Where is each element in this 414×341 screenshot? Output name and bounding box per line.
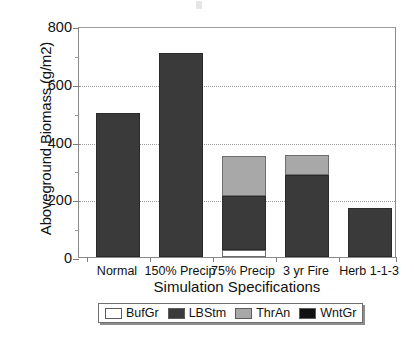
legend-swatch-bufgr bbox=[105, 308, 122, 319]
y-tick-0 bbox=[73, 259, 79, 260]
y-tick-minor-300 bbox=[75, 172, 79, 173]
y-tick-800 bbox=[73, 28, 79, 29]
x-tick-label-3-yr-fire: 3 yr Fire bbox=[283, 264, 329, 278]
legend-swatch-lbstm bbox=[168, 308, 185, 319]
bar-segment-thran bbox=[222, 156, 266, 196]
legend-label-bufgr: BufGr bbox=[126, 306, 159, 320]
y-tick-200 bbox=[73, 201, 79, 202]
x-tick-2 bbox=[213, 257, 214, 262]
x-tick-label-herb: Herb 1-1-3 bbox=[339, 264, 399, 278]
y-tick-minor-500 bbox=[75, 115, 79, 116]
legend-swatch-thran bbox=[235, 308, 252, 319]
x-tick-label-75-precip: 75% Precip bbox=[211, 264, 275, 278]
bar-segment-lbstm bbox=[348, 208, 392, 257]
legend-label-thran: ThrAn bbox=[256, 306, 290, 320]
legend-label-lbstm: LBStm bbox=[189, 306, 227, 320]
bar-segment-lbstm bbox=[159, 53, 203, 257]
legend-swatch-wntgr bbox=[299, 308, 316, 319]
bar-segment-lbstm bbox=[222, 196, 266, 249]
bar-segment-thran bbox=[285, 155, 329, 175]
x-axis-title: Simulation Specifications bbox=[78, 278, 396, 295]
x-tick-3 bbox=[276, 257, 277, 262]
y-tick-label-0: 0 bbox=[26, 250, 72, 266]
plot-area bbox=[78, 27, 396, 258]
x-tick-4 bbox=[339, 257, 340, 262]
chart-legend: BufGr LBStm ThrAn WntGr bbox=[98, 303, 363, 323]
y-tick-minor-100 bbox=[75, 230, 79, 231]
y-tick-label-200: 200 bbox=[26, 192, 72, 208]
y-tick-400 bbox=[73, 144, 79, 145]
y-tick-minor-700 bbox=[75, 57, 79, 58]
y-tick-label-600: 600 bbox=[26, 77, 72, 93]
scan-artifact bbox=[196, 1, 202, 9]
x-tick-label-150-precip: 150% Precip bbox=[145, 264, 216, 278]
y-tick-label-400: 400 bbox=[26, 135, 72, 151]
legend-label-wntgr: WntGr bbox=[320, 306, 356, 320]
x-tick-0 bbox=[87, 257, 88, 262]
legend-item-lbstm: LBStm bbox=[168, 306, 227, 320]
legend-item-wntgr: WntGr bbox=[299, 306, 356, 320]
x-tick-1 bbox=[150, 257, 151, 262]
bar-segment-lbstm bbox=[285, 175, 329, 257]
y-tick-label-800: 800 bbox=[26, 19, 72, 35]
bar-segment-bufgr bbox=[222, 250, 266, 257]
legend-item-thran: ThrAn bbox=[235, 306, 290, 320]
legend-item-bufgr: BufGr bbox=[105, 306, 159, 320]
x-tick-5 bbox=[396, 257, 397, 262]
y-tick-600 bbox=[73, 86, 79, 87]
chart-figure: Aboveground Biomass (g/m2) 800 600 400 2… bbox=[0, 0, 414, 341]
bar-segment-lbstm bbox=[96, 113, 140, 257]
x-tick-label-normal: Normal bbox=[97, 264, 137, 278]
gridline-600 bbox=[79, 86, 395, 87]
